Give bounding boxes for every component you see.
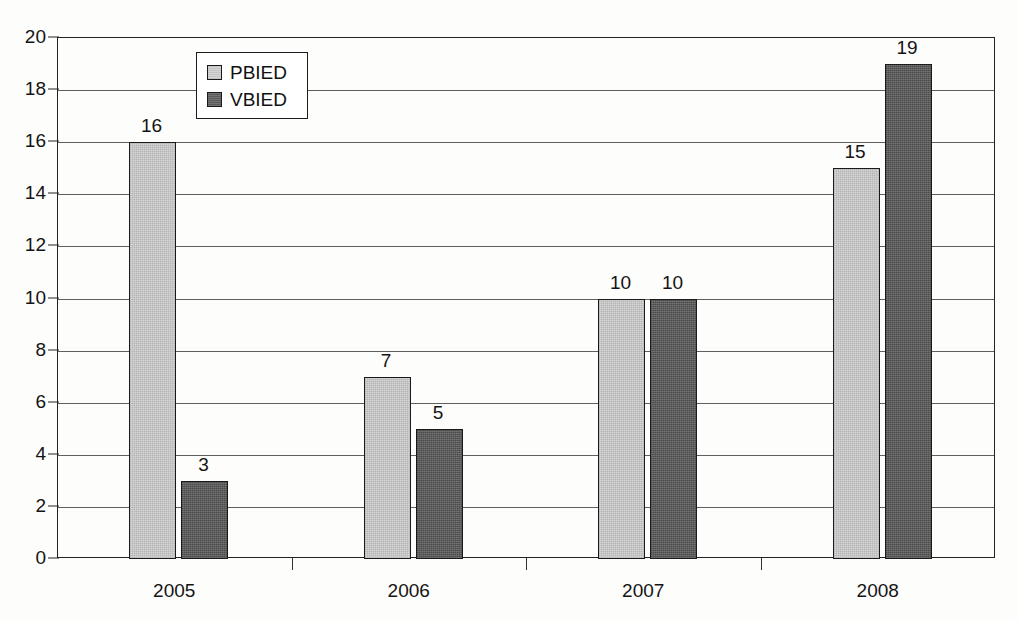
bar-value-label: 15	[844, 141, 865, 163]
y-tick-label: 18	[8, 78, 46, 100]
legend-item-pbied: PBIED	[207, 59, 307, 86]
bar-vbied-2007	[650, 299, 697, 560]
bar-value-label: 16	[141, 115, 162, 137]
bar-value-label: 10	[662, 272, 683, 294]
bar-vbied-2005	[181, 481, 228, 559]
y-tick-label: 6	[8, 391, 46, 413]
x-axis-label: 2008	[857, 580, 899, 602]
x-tick-mark	[526, 558, 527, 570]
bar-value-label: 3	[198, 454, 209, 476]
legend-label-pbied: PBIED	[230, 63, 287, 82]
chart-legend: PBIED VBIED	[196, 52, 308, 119]
chart-page: 02468101214161820 2005200620072008 16375…	[0, 0, 1018, 621]
x-axis-label: 2005	[153, 580, 195, 602]
y-tick-label: 14	[8, 182, 46, 204]
x-tick-mark	[292, 558, 293, 570]
bar-vbied-2008	[885, 64, 932, 559]
y-tick-label: 4	[8, 443, 46, 465]
y-tick-label: 2	[8, 495, 46, 517]
bar-value-label: 5	[433, 402, 444, 424]
bar-value-label: 19	[896, 37, 917, 59]
y-tick-label: 12	[8, 234, 46, 256]
x-axis-label: 2006	[388, 580, 430, 602]
bar-value-label: 10	[610, 272, 631, 294]
bar-pbied-2008	[833, 168, 880, 559]
y-tick-label: 10	[8, 287, 46, 309]
y-tick-label: 20	[8, 26, 46, 48]
legend-label-vbied: VBIED	[230, 90, 287, 109]
y-tick-label: 0	[8, 547, 46, 569]
bar-value-label: 7	[381, 350, 392, 372]
x-axis-label: 2007	[622, 580, 664, 602]
legend-swatch-vbied	[207, 92, 222, 107]
x-tick-mark	[761, 558, 762, 570]
bar-vbied-2006	[416, 429, 463, 559]
y-tick-label: 8	[8, 339, 46, 361]
y-tick-label: 16	[8, 130, 46, 152]
legend-item-vbied: VBIED	[207, 86, 307, 113]
bar-pbied-2007	[598, 299, 645, 560]
bar-pbied-2006	[364, 377, 411, 559]
legend-swatch-pbied	[207, 65, 222, 80]
bar-pbied-2005	[129, 142, 176, 559]
